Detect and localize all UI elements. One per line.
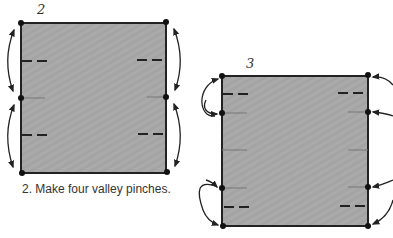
step-3-number: 3 [246,56,254,71]
origami-diagram [0,0,393,238]
step-2-caption: 2. Make four valley pinches. [22,182,171,196]
step-2-number: 2 [37,2,45,17]
step-2-diagram [8,19,181,176]
step-3-diagram [199,72,393,229]
paper-square [222,76,368,226]
